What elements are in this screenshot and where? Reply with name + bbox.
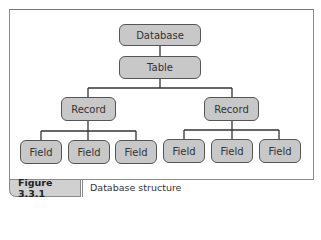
node-label: Field <box>172 146 195 157</box>
node-database: Database <box>119 24 201 46</box>
node-record-1: Record <box>61 97 116 121</box>
node-label: Table <box>147 62 173 73</box>
node-label: Record <box>71 104 106 115</box>
node-label: Record <box>214 104 249 115</box>
node-label: Database <box>136 30 184 41</box>
node-label: Field <box>77 147 100 158</box>
node-field: Field <box>259 139 301 163</box>
node-field: Field <box>163 139 205 163</box>
figure-number-label: Figure 3.3.1 <box>18 177 80 199</box>
caption-divider <box>82 180 83 197</box>
figure-caption: Database structure <box>90 182 181 193</box>
node-label: Field <box>124 147 147 158</box>
node-table: Table <box>119 56 201 79</box>
node-record-2: Record <box>204 97 259 121</box>
node-label: Field <box>268 146 291 157</box>
figure-number: Figure 3.3.1 <box>9 180 81 197</box>
node-label: Field <box>220 146 243 157</box>
node-field: Field <box>20 140 62 164</box>
node-label: Field <box>29 147 52 158</box>
node-field: Field <box>115 140 157 164</box>
node-field: Field <box>211 139 253 163</box>
node-field: Field <box>68 140 110 164</box>
